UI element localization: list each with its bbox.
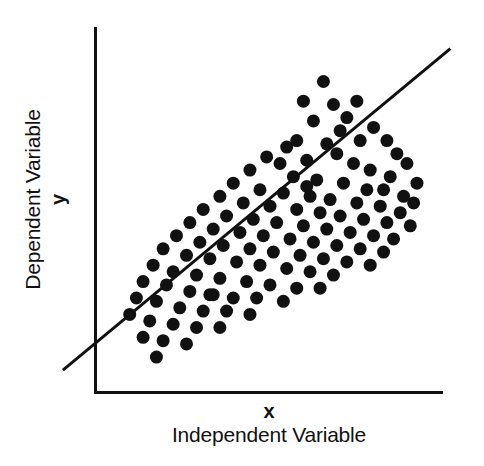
scatter-point <box>340 111 353 124</box>
scatter-point <box>290 282 303 295</box>
scatter-point <box>317 252 330 265</box>
scatter-plot-figure: Dependent Variable y x Independent Varia… <box>0 0 484 466</box>
scatter-point <box>250 292 263 305</box>
scatter-point <box>407 196 420 209</box>
scatter-point <box>367 121 380 134</box>
scatter-point <box>404 219 417 232</box>
scatter-point <box>167 318 180 331</box>
scatter-point <box>173 301 186 314</box>
scatter-point <box>243 164 256 177</box>
scatter-point <box>344 226 357 239</box>
scatter-point <box>360 183 373 196</box>
scatter-point <box>384 170 397 183</box>
scatter-point <box>253 259 266 272</box>
scatter-point <box>354 134 367 147</box>
scatter-point <box>290 203 303 216</box>
scatter-point <box>230 255 243 268</box>
scatter-point <box>320 223 333 236</box>
scatter-point <box>237 196 250 209</box>
scatter-point <box>300 180 313 193</box>
scatter-point <box>257 229 270 242</box>
scatter-point <box>307 114 320 127</box>
scatter-point <box>400 157 413 170</box>
scatter-point <box>253 183 266 196</box>
scatter-point <box>410 177 423 190</box>
scatter-point <box>377 183 390 196</box>
scatter-point <box>183 285 196 298</box>
scatter-point <box>324 193 337 206</box>
scatter-point <box>317 75 330 88</box>
scatter-point <box>357 213 370 226</box>
scatter-point <box>137 275 150 288</box>
scatter-point <box>150 351 163 364</box>
scatter-point <box>180 249 193 262</box>
scatter-point <box>327 269 340 282</box>
scatter-point <box>374 200 387 213</box>
scatter-point <box>350 95 363 108</box>
scatter-point <box>157 334 170 347</box>
scatter-point <box>380 134 393 147</box>
scatter-point <box>130 292 143 305</box>
scatter-point <box>197 305 210 318</box>
scatter-point <box>330 147 343 160</box>
scatter-point <box>340 255 353 268</box>
scatter-point <box>143 314 156 327</box>
scatter-point <box>334 210 347 223</box>
scatter-point <box>197 203 210 216</box>
scatter-point <box>203 288 216 301</box>
scatter-point <box>284 232 297 245</box>
scatter-point <box>364 164 377 177</box>
scatter-point <box>190 269 203 282</box>
scatter-point <box>220 210 233 223</box>
scatter-point <box>274 157 287 170</box>
scatter-point <box>297 95 310 108</box>
scatter-point <box>364 259 377 272</box>
scatter-point <box>330 239 343 252</box>
scatter-point <box>337 177 350 190</box>
scatter-point <box>213 321 226 334</box>
scatter-point <box>170 229 183 242</box>
scatter-point <box>260 150 273 163</box>
scatter-point <box>213 190 226 203</box>
scatter-point <box>207 223 220 236</box>
scatter-point <box>390 147 403 160</box>
scatter-point <box>203 252 216 265</box>
scatter-point <box>220 305 233 318</box>
scatter-point <box>243 308 256 321</box>
scatter-point <box>354 242 367 255</box>
scatter-point <box>280 262 293 275</box>
scatter-point <box>213 272 226 285</box>
scatter-point <box>243 242 256 255</box>
scatter-point <box>180 337 193 350</box>
scatter-point <box>277 295 290 308</box>
scatter-point <box>394 206 407 219</box>
scatter-point <box>314 282 327 295</box>
scatter-point <box>267 246 280 259</box>
scatter-point <box>304 265 317 278</box>
scatter-point <box>294 249 307 262</box>
scatter-point <box>297 219 310 232</box>
scatter-point <box>137 331 150 344</box>
scatter-point <box>350 196 363 209</box>
scatter-point <box>327 98 340 111</box>
scatter-point <box>387 232 400 245</box>
scatter-point <box>377 246 390 259</box>
scatter-point <box>270 216 283 229</box>
scatter-point <box>380 216 393 229</box>
scatter-point <box>147 259 160 272</box>
scatter-point <box>307 236 320 249</box>
scatter-point <box>190 321 203 334</box>
scatter-point <box>347 157 360 170</box>
scatter-point <box>367 229 380 242</box>
scatter-point <box>280 141 293 154</box>
scatter-point <box>183 216 196 229</box>
plot-canvas <box>0 0 484 466</box>
scatter-point <box>227 177 240 190</box>
scatter-point <box>314 206 327 219</box>
scatter-point <box>227 292 240 305</box>
scatter-point <box>264 278 277 291</box>
scatter-point <box>157 242 170 255</box>
scatter-point <box>193 236 206 249</box>
scatter-point <box>240 275 253 288</box>
